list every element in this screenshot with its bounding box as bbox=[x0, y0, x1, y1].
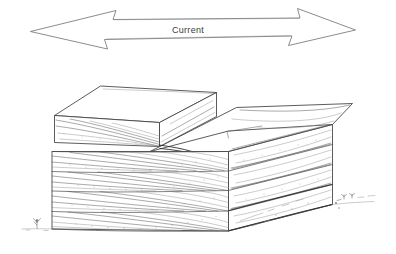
current-label: Current bbox=[172, 25, 204, 35]
grass-tuft-icon-right bbox=[335, 194, 375, 209]
figure-root: Current bbox=[0, 0, 396, 254]
ground-line-right bbox=[332, 202, 374, 205]
current-arrow-group: Current bbox=[31, 9, 356, 50]
grass-tuft-icon-left bbox=[34, 219, 41, 229]
block-diagram-svg: Current bbox=[0, 0, 396, 254]
sandstone-block-group bbox=[22, 86, 375, 231]
